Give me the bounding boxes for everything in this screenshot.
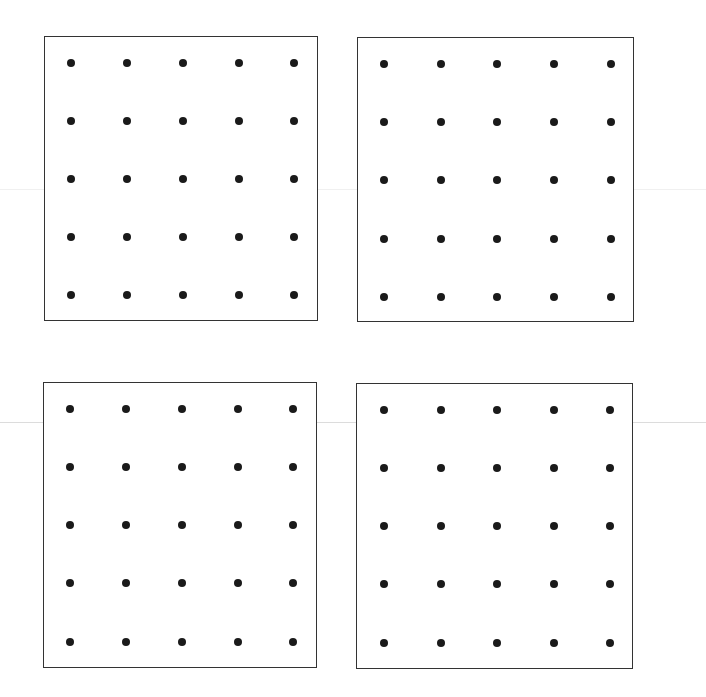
grid-dot bbox=[235, 175, 243, 183]
grid-dot bbox=[290, 291, 298, 299]
grid-dot bbox=[607, 176, 615, 184]
grid-dot bbox=[550, 406, 558, 414]
dot-grid-panel-bottom-left bbox=[43, 382, 317, 668]
grid-dot bbox=[179, 291, 187, 299]
grid-dot bbox=[235, 59, 243, 67]
grid-dot bbox=[437, 235, 445, 243]
grid-dot bbox=[550, 639, 558, 647]
grid-dot bbox=[289, 638, 297, 646]
grid-dot bbox=[380, 118, 388, 126]
grid-dot bbox=[437, 118, 445, 126]
grid-dot bbox=[550, 176, 558, 184]
grid-dot bbox=[123, 117, 131, 125]
grid-dot bbox=[380, 464, 388, 472]
grid-dot bbox=[290, 233, 298, 241]
grid-dot bbox=[122, 521, 130, 529]
grid-dot bbox=[234, 521, 242, 529]
grid-dot bbox=[234, 463, 242, 471]
grid-dot bbox=[67, 175, 75, 183]
grid-dot bbox=[178, 463, 186, 471]
grid-dot bbox=[493, 406, 501, 414]
grid-dot bbox=[437, 580, 445, 588]
grid-dot bbox=[122, 579, 130, 587]
grid-dot bbox=[289, 463, 297, 471]
grid-dot bbox=[493, 60, 501, 68]
grid-dot bbox=[606, 522, 614, 530]
grid-dot bbox=[122, 463, 130, 471]
grid-dot bbox=[67, 117, 75, 125]
grid-dot bbox=[289, 405, 297, 413]
grid-dot bbox=[550, 464, 558, 472]
grid-dot bbox=[493, 176, 501, 184]
grid-dot bbox=[493, 464, 501, 472]
grid-dot bbox=[235, 117, 243, 125]
grid-dot bbox=[606, 464, 614, 472]
grid-dot bbox=[607, 293, 615, 301]
grid-dot bbox=[437, 522, 445, 530]
grid-dot bbox=[123, 59, 131, 67]
grid-dot bbox=[123, 291, 131, 299]
dot-grid-panel-top-right bbox=[357, 37, 634, 322]
dot-grid-panel-top-left bbox=[44, 36, 318, 321]
grid-dot bbox=[290, 59, 298, 67]
grid-dot bbox=[437, 60, 445, 68]
grid-dot bbox=[289, 521, 297, 529]
grid-dot bbox=[607, 60, 615, 68]
grid-dot bbox=[234, 579, 242, 587]
grid-dot bbox=[380, 293, 388, 301]
grid-dot bbox=[178, 405, 186, 413]
grid-dot bbox=[380, 522, 388, 530]
grid-dot bbox=[235, 291, 243, 299]
grid-dot bbox=[550, 580, 558, 588]
grid-dot bbox=[437, 176, 445, 184]
grid-dot bbox=[179, 233, 187, 241]
grid-dot bbox=[290, 117, 298, 125]
grid-dot bbox=[380, 235, 388, 243]
grid-dot bbox=[123, 175, 131, 183]
grid-dot bbox=[380, 176, 388, 184]
grid-dot bbox=[437, 464, 445, 472]
grid-dot bbox=[437, 406, 445, 414]
grid-dot bbox=[234, 405, 242, 413]
grid-dot bbox=[437, 639, 445, 647]
grid-dot bbox=[493, 522, 501, 530]
grid-dot bbox=[122, 405, 130, 413]
grid-dot bbox=[550, 293, 558, 301]
grid-dot bbox=[607, 118, 615, 126]
grid-dot bbox=[235, 233, 243, 241]
grid-dot bbox=[550, 235, 558, 243]
grid-dot bbox=[66, 579, 74, 587]
grid-dot bbox=[178, 521, 186, 529]
grid-dot bbox=[66, 463, 74, 471]
dot-grid-panel-bottom-right bbox=[356, 383, 633, 669]
grid-dot bbox=[493, 580, 501, 588]
grid-dot bbox=[550, 60, 558, 68]
grid-dot bbox=[493, 639, 501, 647]
grid-dot bbox=[179, 117, 187, 125]
grid-dot bbox=[493, 293, 501, 301]
grid-dot bbox=[178, 579, 186, 587]
grid-dot bbox=[607, 235, 615, 243]
grid-dot bbox=[380, 639, 388, 647]
grid-dot bbox=[606, 406, 614, 414]
grid-dot bbox=[550, 522, 558, 530]
grid-dot bbox=[122, 638, 130, 646]
grid-dot bbox=[67, 291, 75, 299]
grid-dot bbox=[380, 580, 388, 588]
grid-dot bbox=[493, 118, 501, 126]
grid-dot bbox=[289, 579, 297, 587]
grid-dot bbox=[179, 59, 187, 67]
grid-dot bbox=[66, 521, 74, 529]
grid-dot bbox=[606, 639, 614, 647]
grid-dot bbox=[493, 235, 501, 243]
grid-dot bbox=[123, 233, 131, 241]
grid-dot bbox=[66, 638, 74, 646]
grid-dot bbox=[67, 59, 75, 67]
grid-dot bbox=[437, 293, 445, 301]
grid-dot bbox=[66, 405, 74, 413]
grid-dot bbox=[67, 233, 75, 241]
grid-dot bbox=[550, 118, 558, 126]
grid-dot bbox=[606, 580, 614, 588]
grid-dot bbox=[178, 638, 186, 646]
grid-dot bbox=[380, 60, 388, 68]
